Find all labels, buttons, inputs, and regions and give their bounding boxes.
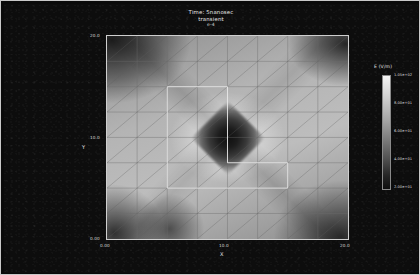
x-axis-label: X <box>220 251 224 257</box>
colorbar-gradient <box>382 75 391 190</box>
plot-title: Time: 5nanosec transient e-4 <box>4 10 418 29</box>
plot-area[interactable] <box>106 35 349 240</box>
x-tick-mid: 10.0 <box>219 243 229 248</box>
figure-window: Time: 5nanosec transient e-4 <box>0 0 420 275</box>
y-axis-label: Y <box>82 144 85 150</box>
figure-canvas: Time: 5nanosec transient e-4 <box>4 4 418 273</box>
colorbar-tick-3: 4.00e+01 <box>394 157 412 161</box>
title-line-2: transient <box>4 17 418 22</box>
x-tick-right: 20.0 <box>340 243 350 248</box>
colorbar-tick-0: 1.05e+02 <box>394 73 412 77</box>
colorbar-tick-2: 6.00e+01 <box>394 129 412 133</box>
colorbar-tick-1: 8.00e+01 <box>394 101 412 105</box>
y-tick-mid: 10.0 <box>90 135 100 140</box>
title-line-1: Time: 5nanosec <box>4 10 418 15</box>
colorbar-title: E (V/m) <box>374 64 418 69</box>
title-line-3: e-4 <box>4 23 418 28</box>
triangular-mesh <box>107 36 348 239</box>
colorbar-tick-4: 2.00e+01 <box>394 185 412 189</box>
colorbar[interactable]: E (V/m) 1.05e+02 8.00e+01 6.00e+01 4.00e… <box>374 64 418 196</box>
y-tick-top: 20.0 <box>90 33 100 38</box>
plot-frame <box>106 35 349 240</box>
x-tick-left: 0.00 <box>100 243 110 248</box>
y-tick-bottom: 0.00 <box>90 236 100 241</box>
